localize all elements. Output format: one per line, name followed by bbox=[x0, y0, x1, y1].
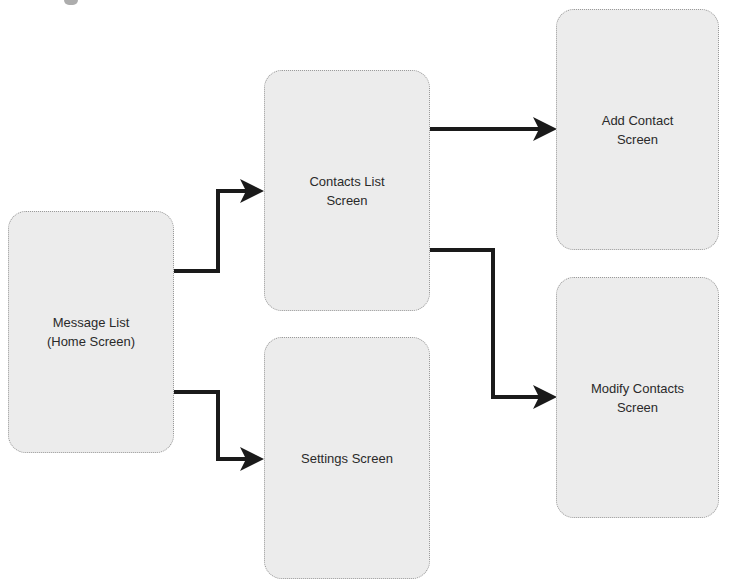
node-settings: Settings Screen bbox=[264, 337, 430, 579]
arrow-message-to-contacts bbox=[173, 191, 260, 271]
node-add-contact: Add Contact Screen bbox=[556, 9, 719, 250]
node-label: Message List (Home Screen) bbox=[47, 313, 135, 351]
arrow-contacts-to-modify bbox=[429, 250, 553, 397]
node-modify-contacts: Modify Contacts Screen bbox=[556, 277, 719, 518]
node-contacts-list: Contacts List Screen bbox=[264, 70, 430, 311]
arrow-message-to-settings bbox=[173, 392, 260, 459]
node-label: Modify Contacts Screen bbox=[591, 379, 684, 417]
node-label: Add Contact Screen bbox=[602, 111, 674, 149]
node-label: Settings Screen bbox=[301, 449, 393, 468]
node-message-list: Message List (Home Screen) bbox=[8, 211, 174, 453]
node-label: Contacts List Screen bbox=[309, 172, 384, 210]
